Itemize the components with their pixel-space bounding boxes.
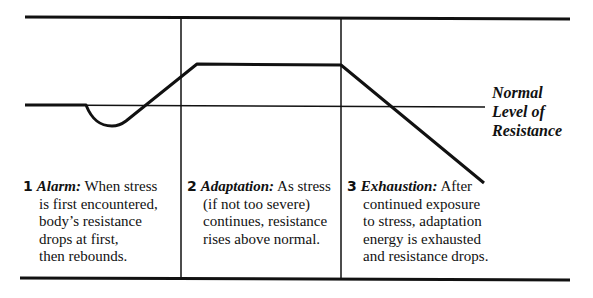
stage-number: 3	[347, 178, 357, 194]
stage-text: rises above normal.	[187, 231, 331, 249]
stage-text: After	[440, 178, 472, 194]
stage-alarm: 1Alarm: When stress is first encountered…	[23, 178, 158, 266]
stage-text: to stress, adaptation	[347, 213, 488, 231]
resistance-curve	[25, 64, 484, 183]
stage-number: 2	[187, 178, 197, 194]
top-border	[25, 17, 570, 19]
stage-text: energy is exhausted	[347, 231, 488, 249]
stage-text: continued exposure	[347, 196, 488, 214]
stage-text: is first encountered,	[23, 196, 158, 214]
normal-level-label: Normal Level of Resistance	[492, 83, 562, 140]
stage-text: When stress	[84, 178, 157, 194]
stage-text: drops at first,	[23, 231, 158, 249]
stage-text: and resistance drops.	[347, 248, 488, 266]
label-line: Normal	[492, 83, 562, 102]
stage-title: Adaptation:	[201, 178, 274, 194]
stage-title: Exhaustion:	[361, 178, 438, 194]
stage-text: body’s resistance	[23, 213, 158, 231]
stage-text: As stress	[277, 178, 331, 194]
bottom-border	[20, 278, 570, 280]
normal-level-line	[25, 105, 485, 107]
label-line: Resistance	[492, 121, 562, 140]
stage-number: 1	[23, 178, 33, 194]
stage-text: (if not too severe)	[187, 196, 331, 214]
stage-exhaustion: 3Exhaustion: After continued exposure to…	[347, 178, 488, 266]
stage-adaptation: 2Adaptation: As stress (if not too sever…	[187, 178, 331, 248]
label-line: Level of	[492, 102, 562, 121]
stage-text: continues, resistance	[187, 213, 331, 231]
stage-text: then rebounds.	[23, 248, 158, 266]
stage-title: Alarm:	[37, 178, 81, 194]
